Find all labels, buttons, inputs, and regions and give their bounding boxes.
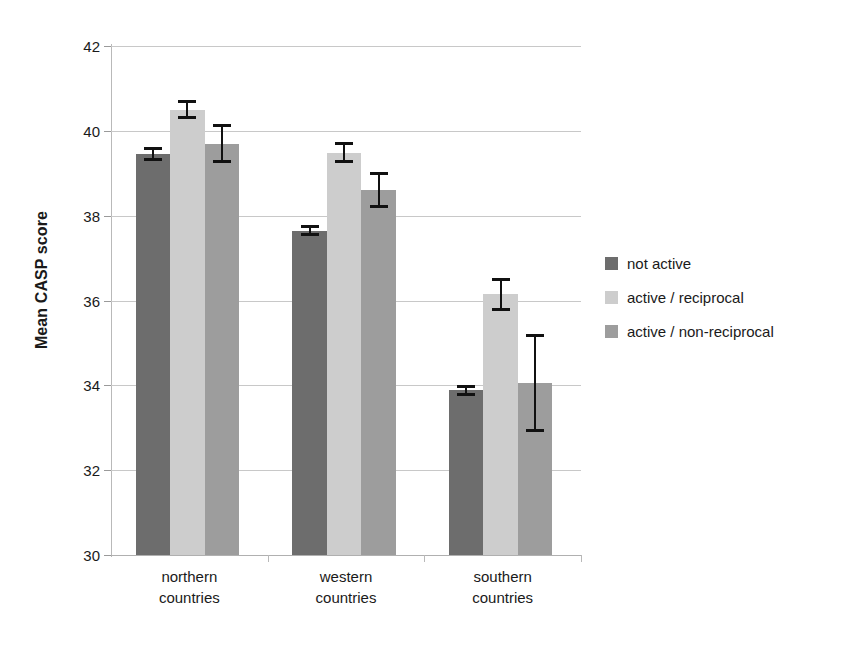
error-bar-cap-top <box>457 385 475 388</box>
bar[interactable] <box>449 390 484 555</box>
error-bar-cap-bottom <box>526 429 544 432</box>
error-bar-cap-top <box>178 100 196 103</box>
legend-swatch-icon <box>605 291 618 304</box>
error-bar-cap-bottom <box>301 233 319 236</box>
y-axis-tick <box>104 301 111 302</box>
x-axis-category-line: countries <box>111 587 268 608</box>
y-axis-title-text: Mean CASP score <box>33 211 51 349</box>
bar[interactable] <box>136 154 171 555</box>
chart-container: Mean CASP score 42403836343230 northernc… <box>0 0 862 654</box>
error-bar-cap-bottom <box>370 205 388 208</box>
y-axis-tick <box>104 555 111 556</box>
legend-item[interactable]: active / reciprocal <box>605 280 855 314</box>
y-axis-tick-label: 34 <box>83 377 100 394</box>
x-axis-category-line: countries <box>424 587 581 608</box>
bar[interactable] <box>361 190 396 555</box>
y-axis-tick <box>104 470 111 471</box>
x-axis-category-line: western <box>268 566 425 587</box>
y-axis-tick-label: 38 <box>83 207 100 224</box>
error-bar-cap-bottom <box>213 160 231 163</box>
plot-area: 42403836343230 <box>111 46 581 555</box>
error-bar-cap-top <box>335 142 353 145</box>
chart-legend: not activeactive / reciprocalactive / no… <box>605 246 855 348</box>
y-axis-tick-label: 30 <box>83 547 100 564</box>
category-separator <box>424 555 425 562</box>
y-axis-tick-label: 36 <box>83 292 100 309</box>
error-bar-stem <box>534 334 536 432</box>
gridline <box>111 555 581 556</box>
error-bar-stem <box>500 278 502 311</box>
y-axis-tick-label: 32 <box>83 462 100 479</box>
bar[interactable] <box>170 110 205 555</box>
category-separator <box>268 555 269 562</box>
x-axis-category-label: northerncountries <box>111 566 268 608</box>
error-bar-cap-top <box>144 147 162 150</box>
legend-label: not active <box>627 255 691 272</box>
x-axis-category-line: northern <box>111 566 268 587</box>
bar[interactable] <box>205 144 240 555</box>
category-separator <box>581 555 582 562</box>
legend-swatch-icon <box>605 325 618 338</box>
error-bar-cap-bottom <box>492 308 510 311</box>
bar[interactable] <box>292 231 327 555</box>
y-axis-title: Mean CASP score <box>12 0 72 560</box>
error-bar-cap-bottom <box>178 116 196 119</box>
legend-label: active / non-reciprocal <box>627 323 774 340</box>
legend-item[interactable]: active / non-reciprocal <box>605 314 855 348</box>
error-bar-stem <box>221 124 223 162</box>
error-bar-cap-top <box>370 172 388 175</box>
error-bar-cap-top <box>526 334 544 337</box>
error-bar-cap-top <box>213 124 231 127</box>
legend-label: active / reciprocal <box>627 289 744 306</box>
x-axis-category-line: countries <box>268 587 425 608</box>
error-bar-cap-bottom <box>144 158 162 161</box>
error-bar-stem <box>378 172 380 208</box>
x-axis-labels: northerncountrieswesterncountriessouther… <box>111 566 581 636</box>
error-bar-cap-top <box>492 278 510 281</box>
bars-group <box>111 46 581 555</box>
legend-swatch-icon <box>605 257 618 270</box>
error-bar-cap-top <box>301 225 319 228</box>
error-bar-cap-bottom <box>457 393 475 396</box>
legend-item[interactable]: not active <box>605 246 855 280</box>
bar[interactable] <box>483 294 518 555</box>
y-axis-tick <box>104 46 111 47</box>
bar[interactable] <box>327 153 362 555</box>
y-axis-tick-label: 42 <box>83 38 100 55</box>
y-axis-tick <box>104 216 111 217</box>
y-axis-tick-label: 40 <box>83 122 100 139</box>
x-axis-category-label: southerncountries <box>424 566 581 608</box>
x-axis-category-label: westerncountries <box>268 566 425 608</box>
error-bar-cap-bottom <box>335 160 353 163</box>
y-axis-tick <box>104 131 111 132</box>
y-axis-tick <box>104 385 111 386</box>
x-axis-category-line: southern <box>424 566 581 587</box>
